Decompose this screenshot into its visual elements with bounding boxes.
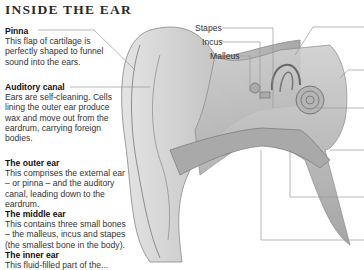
- ear-parts-section: The outer ear This comprises the externa…: [5, 158, 127, 270]
- middle-ear-text: This contains three small bones – the ma…: [5, 219, 127, 250]
- inner-ear-text: This fluid-filled part of the...: [5, 260, 127, 270]
- auditory-canal-heading: Auditory canal: [5, 82, 123, 92]
- auditory-canal-section: Auditory canal Ears are self-cleaning. C…: [5, 82, 123, 143]
- outer-ear-heading: The outer ear: [5, 158, 127, 168]
- pinna-text: This flap of cartilage is perfectly shap…: [5, 36, 123, 67]
- inner-ear-heading: The inner ear: [5, 250, 127, 260]
- pinna-section: Pinna This flap of cartilage is perfectl…: [5, 26, 123, 67]
- auditory-canal-text: Ears are self-cleaning. Cells lining the…: [5, 92, 123, 143]
- middle-ear-heading: The middle ear: [5, 209, 127, 219]
- malleus-label: Malleus: [210, 51, 240, 61]
- outer-ear-text: This comprises the external ear – or pin…: [5, 168, 127, 209]
- page-title: INSIDE THE EAR: [5, 2, 132, 18]
- stapes-label: Stapes: [195, 23, 222, 33]
- pinna-heading: Pinna: [5, 26, 123, 36]
- incus-label: Incus: [202, 37, 223, 47]
